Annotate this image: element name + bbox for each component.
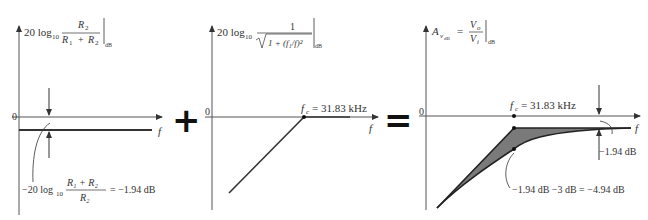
y-label-den-a: R: [61, 34, 68, 45]
y-label-sub: 10: [245, 33, 253, 41]
y-label-unit: dB: [105, 42, 112, 48]
fc-axis-point: [512, 114, 516, 118]
asymptote-line: [229, 117, 350, 193]
annotation-value: = −1.94 dB: [110, 184, 156, 195]
y-label-prefix: 20 log: [217, 26, 245, 38]
x-label: f: [158, 125, 163, 137]
y-label-den: 1 + (f₁/f)²: [268, 38, 303, 48]
y-label-prefix: 20 log: [24, 26, 52, 38]
actual-response-curve: [437, 128, 631, 208]
asymptote-line: [437, 128, 631, 208]
y-label-unit: dB: [488, 39, 495, 45]
fc-value: = 31.83 kHz: [312, 102, 367, 114]
y-label-unit: dB: [315, 43, 322, 49]
equals-operator: =: [384, 100, 413, 140]
offset-label: −1.94 dB: [599, 146, 637, 157]
y-label-subsub: dB: [444, 36, 451, 41]
y-label-sub: 10: [52, 33, 60, 41]
y-label-num-sub: 2: [85, 24, 89, 32]
y-label-den-a-sub: 1: [69, 39, 73, 47]
x-label: f: [369, 122, 374, 134]
shaded-error-region: [437, 128, 631, 208]
fc-curve-point: [512, 147, 516, 151]
leader-curve-fc: [506, 153, 514, 188]
panel-rc-rolloff: 0 f f c = 31.83 kHz 20 log 10 1 1 + (f₁/…: [205, 18, 378, 210]
panel-attenuation-constant: 0 f 20 log 10 R 2 R 1 + R 2 dB −20 log 1…: [12, 18, 163, 215]
y-label-eq: =: [457, 25, 463, 37]
bode-sum-diagram: 0 f 20 log 10 R 2 R 1 + R 2 dB −20 log 1…: [0, 0, 648, 220]
y-label-a: A: [431, 25, 439, 37]
plus-operator: +: [172, 100, 201, 140]
annotation-num: R₁ + R₂: [66, 177, 98, 188]
y-label-den-b: R: [87, 34, 94, 45]
fc-value: = 31.83 kHz: [521, 99, 576, 111]
y-label-den-sub: i: [477, 38, 479, 46]
y-label-den-b-sub: 2: [95, 39, 99, 47]
y-label-num: 1: [290, 21, 295, 32]
leader-curve: [33, 123, 50, 182]
fc-asymptote-point: [512, 126, 516, 130]
combined-label: −1.94 dB −3 dB = −4.94 dB: [512, 184, 625, 195]
zero-label: 0: [419, 106, 424, 117]
fc-sub: c: [515, 105, 519, 113]
y-label-num-sub: o: [477, 24, 481, 32]
zero-label: 0: [12, 111, 17, 122]
y-label-den-plus: +: [78, 34, 84, 45]
panel-total-response: −1.94 dB −1.94 dB −3 dB = −4.94 dB 0 f f…: [419, 19, 640, 210]
annotation-den: R₂: [79, 192, 90, 203]
x-label: f: [635, 122, 640, 134]
fc-sub: c: [306, 108, 310, 116]
annotation-sub: 10: [56, 190, 64, 198]
zero-label: 0: [205, 106, 210, 117]
annotation-prefix: −20 log: [22, 184, 53, 195]
y-label-num: R: [77, 19, 84, 30]
